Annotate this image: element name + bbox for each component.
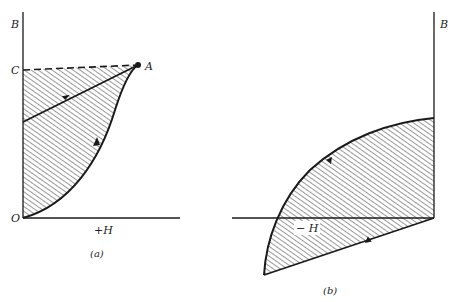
panel-a-point-a-label: A [144,60,153,73]
panel-a-point-c-label: C [11,64,20,77]
panel-b-y-axis-label: B [439,18,448,31]
panel-a-y-axis-label: B [10,18,19,31]
panel-b-x-axis-label: − H [296,222,319,235]
panel-a-hatched-area [23,65,138,218]
panel-a: B C A O +H (a) [10,12,180,259]
panel-a-point-a-marker [135,62,141,68]
panel-a-origin-label: O [11,212,20,225]
panel-a-x-axis-label: +H [94,224,113,237]
panel-b-caption: (b) [323,285,337,296]
panel-a-caption: (a) [90,248,104,259]
hysteresis-diagram: B C A O +H (a) − H B (b) [0,0,454,302]
panel-b: − H B (b) [232,12,448,296]
